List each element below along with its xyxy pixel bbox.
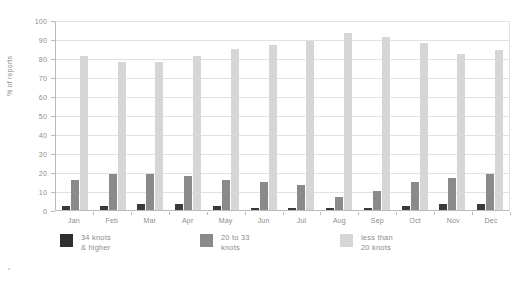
bar-oct-series2 [420, 43, 428, 210]
bar-nov-series2 [457, 54, 465, 210]
x-axis-label-may: May [207, 212, 245, 228]
legend-label-2: less than20 knots [361, 233, 393, 252]
y-axis-tick-70: 70 [7, 75, 47, 82]
bar-sep-series2 [382, 37, 390, 210]
bar-jul-series0 [288, 208, 296, 210]
bar-sep-series1 [373, 191, 381, 210]
y-axis-tick-50: 50 [7, 113, 47, 120]
bar-dec-series1 [486, 174, 494, 210]
legend-item-0[interactable]: 34 knots& higher [60, 233, 200, 263]
bar-group-jan [56, 22, 94, 210]
legend-swatch-0 [60, 234, 73, 247]
bar-group-jun [245, 22, 283, 210]
bar-group-apr [169, 22, 207, 210]
x-tick-mark [510, 212, 511, 215]
bar-nov-series0 [439, 204, 447, 210]
corner-marker-dot [8, 268, 10, 270]
x-axis-labels: JanFebMarAprMayJunJulAugSepOctNovDec [55, 212, 510, 228]
y-axis-tick-20: 20 [7, 170, 47, 177]
x-axis-label-feb: Feb [93, 212, 131, 228]
legend-label-line2: knots [221, 243, 250, 253]
legend-label-0: 34 knots& higher [81, 233, 111, 252]
bar-group-sep [358, 22, 396, 210]
bar-aug-series2 [344, 33, 352, 210]
legend-label-line1: less than [361, 233, 393, 243]
y-axis-tick-0: 0 [7, 208, 47, 215]
bar-jan-series2 [80, 56, 88, 210]
bar-apr-series2 [193, 56, 201, 210]
y-axis-tick-10: 10 [7, 189, 47, 196]
plot-area [55, 21, 510, 211]
bar-aug-series1 [335, 197, 343, 210]
bar-oct-series0 [402, 206, 410, 210]
x-axis-label-aug: Aug [320, 212, 358, 228]
bar-group-dec [471, 22, 509, 210]
legend-item-1[interactable]: 20 to 33knots [200, 233, 340, 263]
y-axis-tick-90: 90 [7, 37, 47, 44]
legend-label-line1: 34 knots [81, 233, 111, 243]
bar-jun-series0 [251, 208, 259, 210]
y-axis-tick-labels: 0102030405060708090100 [0, 21, 55, 211]
bar-apr-series0 [175, 204, 183, 210]
x-axis-label-oct: Oct [396, 212, 434, 228]
bar-jul-series2 [306, 41, 314, 210]
wind-speed-bar-chart: % of reports 0102030405060708090100 JanF… [0, 0, 514, 281]
bar-group-nov [434, 22, 472, 210]
bar-jun-series1 [260, 182, 268, 211]
y-axis-tick-100: 100 [7, 18, 47, 25]
y-axis-tick-30: 30 [7, 151, 47, 158]
bar-group-jul [283, 22, 321, 210]
bar-feb-series0 [100, 206, 108, 210]
bar-jan-series1 [71, 180, 79, 210]
legend-label-line2: & higher [81, 243, 111, 253]
x-axis-label-jul: Jul [283, 212, 321, 228]
bar-sep-series0 [364, 208, 372, 210]
bar-group-oct [396, 22, 434, 210]
bar-aug-series0 [326, 208, 334, 210]
x-axis-label-dec: Dec [472, 212, 510, 228]
bar-jan-series0 [62, 206, 70, 210]
bar-group-aug [320, 22, 358, 210]
bar-jun-series2 [269, 45, 277, 210]
x-axis-label-sep: Sep [358, 212, 396, 228]
bar-may-series1 [222, 180, 230, 210]
bar-feb-series2 [118, 62, 126, 210]
legend-label-line2: 20 knots [361, 243, 393, 253]
legend-label-1: 20 to 33knots [221, 233, 250, 252]
bar-nov-series1 [448, 178, 456, 210]
x-axis-label-nov: Nov [434, 212, 472, 228]
bar-feb-series1 [109, 174, 117, 210]
bar-may-series0 [213, 206, 221, 210]
bar-group-may [207, 22, 245, 210]
x-axis-label-mar: Mar [131, 212, 169, 228]
bar-mar-series1 [146, 174, 154, 210]
bar-apr-series1 [184, 176, 192, 210]
legend-item-2[interactable]: less than20 knots [340, 233, 480, 263]
x-axis-label-apr: Apr [169, 212, 207, 228]
bar-groups [56, 22, 509, 210]
y-axis-tick-80: 80 [7, 56, 47, 63]
x-axis-label-jan: Jan [55, 212, 93, 228]
bar-oct-series1 [411, 182, 419, 211]
y-axis-tick-40: 40 [7, 132, 47, 139]
legend-swatch-2 [340, 234, 353, 247]
bar-group-feb [94, 22, 132, 210]
legend-label-line1: 20 to 33 [221, 233, 250, 243]
bar-may-series2 [231, 49, 239, 211]
bar-dec-series0 [477, 204, 485, 210]
bar-jul-series1 [297, 185, 305, 210]
legend-swatch-1 [200, 234, 213, 247]
chart-legend: 34 knots& higher20 to 33knotsless than20… [60, 233, 480, 263]
bar-mar-series0 [137, 204, 145, 210]
bar-mar-series2 [155, 62, 163, 210]
bar-group-mar [132, 22, 170, 210]
x-axis-label-jun: Jun [245, 212, 283, 228]
bar-dec-series2 [495, 50, 503, 210]
y-axis-tick-60: 60 [7, 94, 47, 101]
